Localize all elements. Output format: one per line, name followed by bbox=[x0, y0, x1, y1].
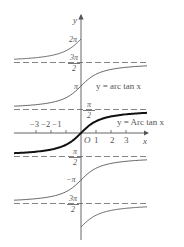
fraction-numerator: π bbox=[69, 148, 81, 158]
origin-label: O bbox=[84, 136, 91, 145]
curve-branch-neg-2pi bbox=[81, 207, 147, 227]
y-mark-pi: π bbox=[74, 83, 78, 91]
y-mark-neg-3pi-over-2: 3π 2 bbox=[67, 195, 79, 214]
x-axis-label: x bbox=[143, 137, 147, 146]
x-tick-label-2: 2 bbox=[110, 136, 115, 145]
x-tick-label-1: 1 bbox=[94, 136, 99, 145]
y-mark-pi-over-2: π 2 bbox=[83, 101, 95, 120]
label-multivalued-arctan: y = arc tan x bbox=[96, 82, 141, 91]
y-mark-3pi-over-2: 3π 2 bbox=[68, 54, 80, 73]
label-text: y = Arc tan x bbox=[117, 117, 164, 127]
fraction-numerator: 3π bbox=[67, 195, 79, 205]
y-mark-neg-pi-over-2: π 2 bbox=[69, 148, 81, 167]
fraction-denominator: 2 bbox=[67, 205, 79, 214]
y-mark-2pi: 2π bbox=[69, 36, 77, 44]
fraction-denominator: 2 bbox=[69, 158, 81, 167]
label-text: y = arc tan x bbox=[96, 81, 141, 91]
y-mark-neg-pi: −π bbox=[66, 176, 75, 184]
fraction-numerator: 3π bbox=[68, 54, 80, 64]
fraction-numerator: π bbox=[83, 101, 95, 111]
fraction-denominator: 2 bbox=[83, 111, 95, 120]
y-axis-label: y bbox=[73, 16, 77, 25]
label-principal-arctan: y = Arc tan x bbox=[117, 118, 164, 127]
fraction-denominator: 2 bbox=[68, 64, 80, 73]
x-tick-labels-negative: −3 −2 −1 bbox=[30, 120, 61, 129]
x-tick-label-3: 3 bbox=[124, 136, 129, 145]
